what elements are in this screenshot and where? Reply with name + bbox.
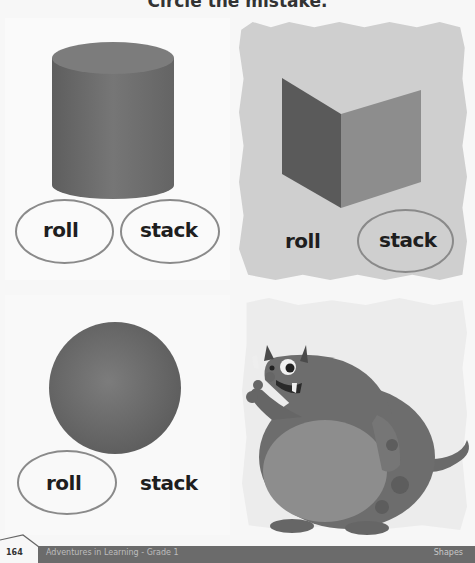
option-roll[interactable]: roll bbox=[46, 471, 81, 495]
option-roll[interactable]: roll bbox=[285, 229, 320, 253]
cube-icon bbox=[279, 78, 429, 214]
option-stack[interactable]: stack bbox=[379, 228, 437, 252]
book-title: Adventures in Learning - Grade 1 bbox=[46, 548, 179, 557]
section-name: Shapes bbox=[434, 548, 463, 557]
option-roll[interactable]: roll bbox=[43, 218, 78, 242]
monster-illustration bbox=[242, 345, 475, 535]
cylinder-icon bbox=[50, 40, 180, 200]
page-title: Circle the mistake. bbox=[0, 0, 475, 11]
page-number: 164 bbox=[6, 548, 23, 557]
option-stack[interactable]: stack bbox=[140, 471, 198, 495]
sphere-icon bbox=[48, 319, 184, 457]
option-stack[interactable]: stack bbox=[140, 218, 198, 242]
